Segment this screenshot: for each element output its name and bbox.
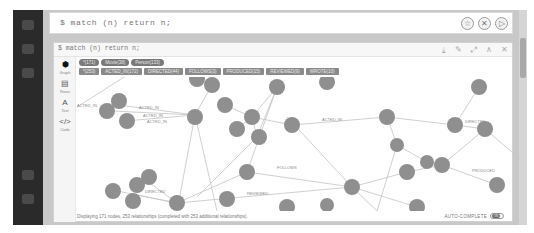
status-message: Displaying 171 nodes, 253 relationships … xyxy=(77,214,248,219)
graph-legend: *(171) Movie(38) Person(133) *(253) ACTE… xyxy=(79,59,508,77)
clear-button[interactable]: ✕ xyxy=(478,17,491,30)
query-editor[interactable]: $ match (n) return n; ☆ ✕ ▷ xyxy=(49,12,513,34)
autocomplete-toggle[interactable]: ON xyxy=(490,213,504,219)
view-text[interactable]: A Text xyxy=(54,98,76,113)
edge-label: FOLLOWS xyxy=(277,165,297,170)
left-navigation-bar xyxy=(13,10,43,225)
rel-type-produced[interactable]: PRODUCED(15) xyxy=(223,68,265,75)
frame-actions: ⤓ ✎ ⤢ ∧ ✕ xyxy=(442,44,508,56)
graph-svg[interactable]: ACTED_IN ACTED_IN ACTED_IN ACTED_IN DIRE… xyxy=(77,77,513,211)
main-area: $ match (n) return n; ☆ ✕ ▷ $ match (n) … xyxy=(43,10,519,225)
rel-type-all[interactable]: *(253) xyxy=(79,68,99,75)
autocomplete-label: AUTO-COMPLETE xyxy=(444,214,487,219)
graph-canvas[interactable]: ACTED_IN ACTED_IN ACTED_IN ACTED_IN DIRE… xyxy=(77,77,513,211)
rel-type-follows[interactable]: FOLLOWS(3) xyxy=(185,68,221,75)
node-labels-row: *(171) Movie(38) Person(133) xyxy=(79,59,508,66)
scrollbar-thumb[interactable] xyxy=(520,38,526,78)
frame-header: $ match (n) return n; ⤓ ✎ ⤢ ∧ ✕ xyxy=(54,43,512,57)
favorite-button[interactable]: ☆ xyxy=(461,17,474,30)
edge-label: ACTED_IN xyxy=(139,105,159,110)
node-label-movie[interactable]: Movie(38) xyxy=(101,59,129,66)
edge-label: ACTED_IN xyxy=(147,119,167,124)
close-icon[interactable]: ✕ xyxy=(501,44,508,56)
database-icon[interactable] xyxy=(22,20,34,30)
expand-icon[interactable]: ⤢ xyxy=(471,44,477,56)
rel-type-wrote[interactable]: WROTE(10) xyxy=(306,68,339,75)
favorites-icon[interactable] xyxy=(22,44,34,54)
chevron-up-icon[interactable]: ∧ xyxy=(486,44,492,56)
run-button[interactable]: ▷ xyxy=(495,17,508,30)
table-icon: ▤ xyxy=(54,79,76,89)
frame-query[interactable]: $ match (n) return n; xyxy=(58,45,140,52)
edge-label: ACTED_IN xyxy=(322,117,342,122)
query-input[interactable]: $ match (n) return n; xyxy=(60,18,171,27)
settings-icon[interactable] xyxy=(22,194,34,204)
relationship-types-row: *(253) ACTED_IN(172) DIRECTED(44) FOLLOW… xyxy=(79,68,508,75)
node-label-person[interactable]: Person(133) xyxy=(131,59,164,66)
pin-icon[interactable]: ✎ xyxy=(455,44,462,56)
editor-actions: ☆ ✕ ▷ xyxy=(461,17,508,30)
node-label-all[interactable]: *(171) xyxy=(79,59,99,66)
view-graph[interactable]: ⬢ Graph xyxy=(54,60,76,75)
autocomplete-setting: AUTO-COMPLETE ON xyxy=(444,213,504,219)
edge-label: REVIEWED xyxy=(247,191,268,196)
view-code[interactable]: </> Code xyxy=(54,117,76,132)
edge-label: ACTED_IN xyxy=(143,113,163,118)
rel-type-acted-in[interactable]: ACTED_IN(172) xyxy=(101,68,142,75)
rel-type-directed[interactable]: DIRECTED(44) xyxy=(144,68,183,75)
edge-label: DIRECTED xyxy=(465,119,486,124)
download-icon[interactable]: ⤓ xyxy=(442,44,446,56)
result-frame: $ match (n) return n; ⤓ ✎ ⤢ ∧ ✕ ⬢ Graph … xyxy=(53,42,513,222)
app-window: $ match (n) return n; ☆ ✕ ▷ $ match (n) … xyxy=(13,10,527,225)
edge-label: PRODUCED xyxy=(472,168,495,173)
rel-type-reviewed[interactable]: REVIEWED(9) xyxy=(266,68,304,75)
text-icon: A xyxy=(54,98,76,108)
view-rows[interactable]: ▤ Rows xyxy=(54,79,76,94)
documents-icon[interactable] xyxy=(22,68,34,78)
edge-label: ACTED_IN xyxy=(77,103,97,108)
graph-icon: ⬢ xyxy=(54,60,76,70)
view-switcher: ⬢ Graph ▤ Rows A Text </> Code xyxy=(54,57,76,222)
cloud-icon[interactable] xyxy=(22,170,34,180)
edge-label: DIRECTED xyxy=(145,189,166,194)
vertical-scrollbar[interactable] xyxy=(519,10,527,225)
toggle-state: ON xyxy=(492,214,500,218)
code-icon: </> xyxy=(54,117,76,127)
